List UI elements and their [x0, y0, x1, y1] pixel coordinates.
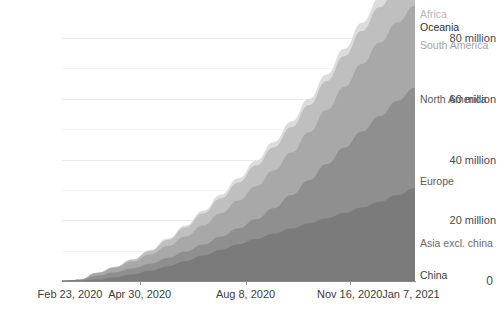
x-tick-label: Aug 8, 2020 [216, 288, 275, 300]
x-axis-tick [350, 281, 351, 285]
x-tick-label: Jan 7, 2021 [382, 288, 440, 300]
series-label-north-america: North America [420, 93, 487, 105]
series-label-africa: Africa [420, 8, 447, 20]
series-label-china: China [420, 269, 447, 281]
x-axis-baseline [62, 281, 416, 282]
x-tick-label: Feb 23, 2020 [38, 288, 103, 300]
series-label-asia-excl-china: Asia excl. china [420, 237, 493, 249]
stacked-area-chart: 020 million40 million60 million80 millio… [0, 0, 500, 312]
y-tick-label: 0 [486, 274, 493, 288]
y-tick-label: 40 million [450, 154, 496, 166]
y-tick-label: 20 million [450, 214, 496, 226]
x-axis-tick [140, 281, 141, 285]
x-axis-tick [246, 281, 247, 285]
x-tick-label: Nov 16, 2020 [317, 288, 382, 300]
x-tick-label: Apr 30, 2020 [108, 288, 171, 300]
series-label-oceania: Oceania [420, 21, 459, 33]
series-label-south-america: South America [420, 39, 488, 51]
series-label-europe: Europe [420, 175, 454, 187]
